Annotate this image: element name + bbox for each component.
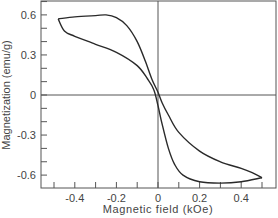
y-tick-label: -0.3 <box>17 129 36 141</box>
hysteresis-chart: -0.4-0.200.20.40.60.30-0.3-0.6 Magnetic … <box>0 0 278 218</box>
hysteresis-branch <box>58 19 262 183</box>
y-tick-label: -0.6 <box>17 169 36 181</box>
tick-labels: -0.4-0.200.20.40.60.30-0.3-0.6 <box>17 9 249 204</box>
hysteresis-loop <box>58 15 262 183</box>
y-tick-label: 0 <box>30 89 36 101</box>
hysteresis-branch <box>58 15 262 178</box>
x-tick-label: -0.4 <box>65 192 84 204</box>
x-tick-label: 0.4 <box>234 192 249 204</box>
y-axis-title: Magnetization (emu/g) <box>0 40 12 149</box>
y-tick-label: 0.6 <box>21 9 36 21</box>
x-axis-title: Magnetic field (kOe) <box>103 203 213 215</box>
y-tick-label: 0.3 <box>21 49 36 61</box>
